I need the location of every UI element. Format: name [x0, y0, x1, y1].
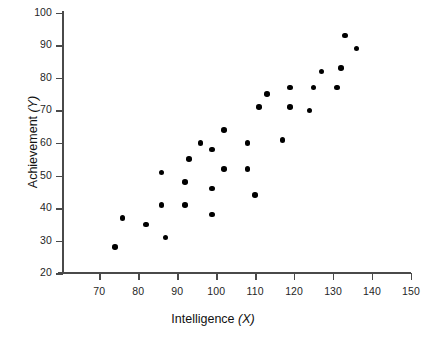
y-tick-mark [56, 273, 63, 274]
data-point [120, 215, 126, 221]
x-tick-mark [255, 273, 256, 280]
y-axis-title: Achievement (Y) [26, 42, 40, 242]
data-point [112, 244, 118, 250]
y-tick-mark [56, 208, 63, 209]
y-tick-mark [56, 45, 63, 46]
data-point [159, 170, 165, 176]
x-axis-line [58, 272, 411, 274]
y-tick-label: 100 [28, 6, 52, 18]
y-tick-mark [56, 78, 63, 79]
scatter-plot-figure: 2030405060708090100 70809010011012013014… [0, 0, 426, 340]
x-tick-label: 90 [163, 285, 191, 297]
x-tick-label: 130 [319, 285, 347, 297]
data-point [159, 202, 165, 208]
x-axis-title-variable: (X) [238, 312, 255, 326]
x-tick-mark [99, 273, 100, 280]
y-tick-mark [56, 241, 63, 242]
data-point [163, 235, 169, 241]
y-tick-label: 20 [28, 266, 52, 278]
y-tick-mark [56, 13, 63, 14]
data-point [252, 192, 258, 198]
y-tick-mark [56, 143, 63, 144]
data-point [221, 127, 227, 133]
data-point [287, 104, 293, 110]
x-tick-mark [294, 273, 295, 280]
x-tick-mark [216, 273, 217, 280]
y-axis-title-variable: (Y) [26, 96, 40, 113]
x-tick-mark [411, 273, 412, 280]
x-tick-label: 80 [124, 285, 152, 297]
x-axis-title: Intelligence (X) [0, 312, 426, 326]
x-tick-mark [177, 273, 178, 280]
data-point [209, 212, 215, 218]
data-point [245, 166, 251, 172]
x-tick-mark [333, 273, 334, 280]
y-tick-mark [56, 176, 63, 177]
data-point [209, 186, 215, 192]
data-point [256, 104, 262, 110]
x-tick-label: 120 [280, 285, 308, 297]
x-tick-label: 70 [85, 285, 113, 297]
y-axis-title-text: Achievement [26, 112, 40, 188]
data-point [338, 65, 344, 71]
data-point [182, 202, 188, 208]
data-point [319, 69, 325, 75]
data-point [264, 91, 270, 97]
data-point [182, 179, 188, 185]
data-point [186, 156, 192, 162]
x-tick-mark [372, 273, 373, 280]
data-point [342, 33, 348, 39]
x-tick-label: 140 [358, 285, 386, 297]
data-point [221, 166, 227, 172]
y-tick-mark [56, 110, 63, 111]
data-point [245, 140, 251, 146]
x-axis-title-text: Intelligence [171, 312, 238, 326]
data-point [143, 222, 149, 228]
data-point [354, 46, 360, 52]
x-tick-mark [138, 273, 139, 280]
data-point [311, 85, 317, 91]
x-tick-label: 150 [397, 285, 425, 297]
data-point [280, 137, 286, 143]
data-point [209, 147, 215, 153]
data-point [198, 140, 204, 146]
data-point [307, 108, 313, 114]
x-tick-label: 110 [241, 285, 269, 297]
data-point [287, 85, 293, 91]
x-tick-label: 100 [202, 285, 230, 297]
data-point [334, 85, 340, 91]
